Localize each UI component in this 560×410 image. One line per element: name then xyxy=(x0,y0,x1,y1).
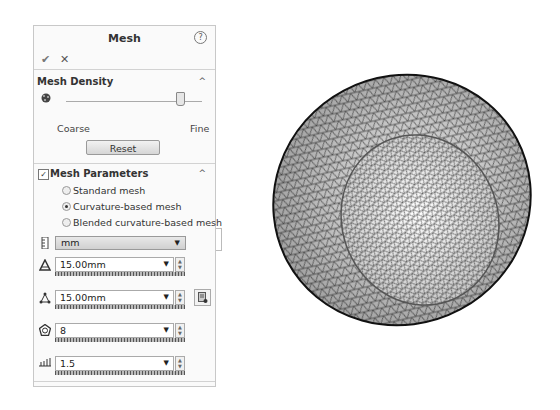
min-element-size-input[interactable]: 15.00mm ▼ xyxy=(55,290,174,305)
min-element-size-icon xyxy=(39,292,51,304)
chevron-down-icon[interactable]: ▼ xyxy=(164,357,169,370)
max-element-size-input[interactable]: 15.00mm ▼ xyxy=(55,257,174,272)
mesh-parameters-checkbox[interactable]: ✓ xyxy=(38,169,49,180)
radio-curvature-based-mesh[interactable]: Curvature-based mesh xyxy=(62,201,182,212)
radio-blended-curvature-mesh[interactable]: Blended curvature-based mesh xyxy=(62,217,222,228)
min-element-size-field[interactable]: 15.00mm ▼ ▲▼ xyxy=(55,290,187,310)
spin-buttons[interactable]: ▲▼ xyxy=(175,356,185,371)
growth-ratio-input[interactable]: 1.5 ▼ xyxy=(55,356,174,371)
growth-ratio-field[interactable]: 1.5 ▼ ▲▼ xyxy=(55,356,187,376)
mesh-parameters-title: Mesh Parameters xyxy=(50,168,148,179)
radio-button[interactable] xyxy=(62,186,71,195)
reset-button[interactable]: Reset xyxy=(86,140,160,155)
spin-buttons[interactable]: ▲▼ xyxy=(175,257,185,272)
help-icon[interactable]: ? xyxy=(194,31,207,44)
field-value: 8 xyxy=(60,325,66,336)
growth-ratio-icon xyxy=(39,356,51,368)
panel-title: Mesh xyxy=(34,32,215,45)
field-value: 15.00mm xyxy=(60,259,106,270)
spin-down-icon[interactable]: ▼ xyxy=(176,330,184,336)
chevron-down-icon[interactable]: ▼ xyxy=(164,324,169,337)
field-value: 15.00mm xyxy=(60,292,106,303)
spin-buttons[interactable]: ▲▼ xyxy=(175,323,185,338)
divider xyxy=(34,163,215,164)
spin-down-icon[interactable]: ▼ xyxy=(176,297,184,303)
min-elements-in-circle-field[interactable]: 8 ▼ ▲▼ xyxy=(55,323,187,343)
spin-down-icon[interactable]: ▼ xyxy=(176,363,184,369)
fine-label: Fine xyxy=(190,123,209,134)
radio-button[interactable] xyxy=(62,202,71,211)
collapse-mesh-density-icon[interactable]: ^ xyxy=(198,76,206,86)
unit-icon xyxy=(39,237,51,249)
value-ruler[interactable] xyxy=(55,305,185,309)
collapse-mesh-parameters-icon[interactable]: ^ xyxy=(198,168,206,178)
chevron-down-icon[interactable]: ▼ xyxy=(164,258,169,271)
radio-label: Blended curvature-based mesh xyxy=(73,217,222,228)
radio-label: Standard mesh xyxy=(73,185,145,196)
chevron-down-icon: ▼ xyxy=(175,237,180,249)
divider xyxy=(34,69,215,70)
mesh-settings-doc-icon[interactable] xyxy=(194,289,211,306)
mesh-density-title: Mesh Density xyxy=(37,76,113,87)
mesh-density-slider-thumb[interactable] xyxy=(176,92,185,106)
spin-down-icon[interactable]: ▼ xyxy=(176,264,184,270)
mesh-model-viewport[interactable] xyxy=(270,70,540,340)
radio-label: Curvature-based mesh xyxy=(73,201,182,212)
radio-standard-mesh[interactable]: Standard mesh xyxy=(62,185,145,196)
mesh-density-icon xyxy=(41,93,51,103)
cancel-x-icon[interactable]: ✕ xyxy=(60,53,69,66)
radio-button[interactable] xyxy=(62,218,71,227)
chevron-down-icon[interactable]: ▼ xyxy=(164,291,169,304)
max-element-size-icon xyxy=(39,259,51,271)
value-ruler[interactable] xyxy=(55,272,185,276)
value-ruler[interactable] xyxy=(55,371,185,375)
unit-dropdown[interactable]: mm ▼ xyxy=(55,236,186,250)
min-elements-in-circle-icon xyxy=(39,324,51,336)
mesh-property-manager: Mesh ? ✔ ✕ Mesh Density ^ Coarse Fine Re… xyxy=(33,25,216,387)
field-value: 1.5 xyxy=(60,358,75,369)
spin-buttons[interactable]: ▲▼ xyxy=(175,290,185,305)
unit-value: mm xyxy=(61,237,80,248)
panel-splitter-handle[interactable] xyxy=(216,228,222,251)
value-ruler[interactable] xyxy=(55,338,185,342)
divider xyxy=(34,381,215,382)
coarse-label: Coarse xyxy=(57,123,90,134)
ok-check-icon[interactable]: ✔ xyxy=(41,53,50,66)
max-element-size-field[interactable]: 15.00mm ▼ ▲▼ xyxy=(55,257,187,277)
min-elements-in-circle-input[interactable]: 8 ▼ xyxy=(55,323,174,338)
